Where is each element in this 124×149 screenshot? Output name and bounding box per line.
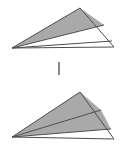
figure-root xyxy=(0,0,124,149)
panel-divider-tick xyxy=(58,62,60,75)
bottom-triangle-panel xyxy=(12,92,114,139)
triangles-figure xyxy=(0,0,124,149)
top-triangle-panel xyxy=(12,8,114,48)
